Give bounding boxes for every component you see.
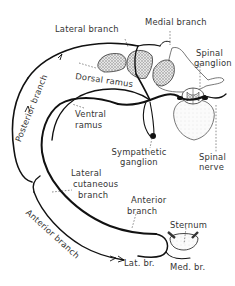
label-lateral-cutaneous-line3: branch — [78, 191, 108, 201]
label-spinal-nerve-line2: nerve — [199, 163, 224, 173]
spinal-ganglion-node-right — [202, 96, 208, 100]
label-spinal-ganglion-line2: ganglion — [194, 59, 232, 69]
label-sympathetic-ganglion-line2: ganglion — [108, 158, 170, 168]
label-anterior-branch-line1: Anterior — [131, 196, 166, 206]
label-sternum: Sternum — [170, 221, 207, 231]
sympathetic-ganglion-node — [150, 133, 156, 139]
label-medial-branch: Medial branch — [145, 18, 207, 28]
label-lateral-cutaneous-line2: cutaneous — [73, 180, 118, 190]
label-anterior-branch-line2: branch — [127, 207, 157, 217]
label-lateral-cutaneous-line1: Lateral — [71, 169, 102, 179]
label-ventral-ramus-line1: Ventral — [75, 110, 106, 120]
sternum-shape — [168, 232, 198, 250]
spinal-nerve-diagram: Lateral branch Medial branch Spinal gang… — [0, 0, 235, 286]
label-lat-br: Lat. br. — [124, 259, 155, 269]
spinal-cord — [182, 88, 204, 104]
label-ventral-ramus-line2: ramus — [75, 121, 102, 131]
diagram-drawing — [0, 0, 235, 286]
spinal-ganglion-node — [177, 96, 183, 100]
label-med-br: Med. br. — [170, 263, 205, 273]
label-lateral-branch: Lateral branch — [55, 25, 119, 35]
